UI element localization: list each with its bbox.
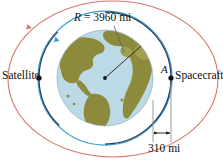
island-dot-1 [140, 75, 145, 80]
earth-center-dot [103, 76, 107, 80]
radius-symbol: R [74, 11, 81, 23]
point-a-label: A [161, 64, 168, 75]
satellite-label: Satellite [2, 70, 40, 82]
island-dot-5 [73, 103, 76, 106]
island-dot-4 [66, 94, 69, 97]
island-dot-2 [145, 68, 149, 72]
altitude-dimension-label: 310 mi [148, 143, 180, 155]
spacecraft-marker-dot [168, 75, 173, 80]
transfer-orbit-direction-arrow [26, 24, 32, 30]
orbital-diagram-figure: R = 3960 mi Satellite A Spacecraft 310 m… [0, 0, 223, 161]
satellite-orbit-direction-arrow [54, 37, 60, 43]
radius-label: R = 3960 mi [74, 12, 131, 24]
spacecraft-label: Spacecraft [175, 70, 223, 82]
island-dot-3 [121, 99, 124, 102]
radius-value-text: = 3960 mi [81, 11, 131, 23]
